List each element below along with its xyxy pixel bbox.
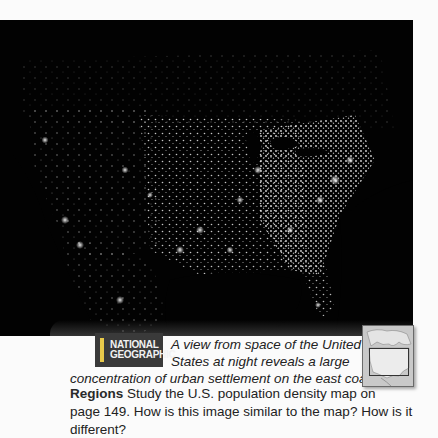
- question-line1: Regions Study the U.S. population densit…: [70, 385, 438, 403]
- yellow-border-icon: [100, 338, 104, 362]
- locator-highlight-frame: [369, 348, 409, 376]
- national-geographic-logo: NATIONAL GEOGRAPHIC: [95, 333, 163, 367]
- question-line2: page 149. How is this image similar to t…: [70, 403, 438, 438]
- question-label: Regions: [70, 386, 123, 401]
- caption-line2: States at night reveals a large: [171, 353, 350, 370]
- caption-line1: A view from space of the United: [171, 336, 361, 353]
- night-satellite-photo: [0, 20, 413, 338]
- city-lights-map: [0, 20, 413, 338]
- logo-text: NATIONAL GEOGRAPHIC: [110, 340, 175, 360]
- logo-line2: GEOGRAPHIC: [110, 350, 175, 360]
- locator-map: [362, 325, 414, 387]
- regions-question: Regions Study the U.S. population densit…: [70, 385, 438, 438]
- question-text1: Study the U.S. population density map on: [123, 386, 375, 401]
